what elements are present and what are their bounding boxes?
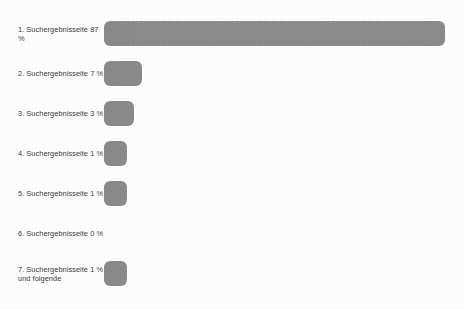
chart-row: 6. Suchergebnisseite 0 % <box>0 214 464 254</box>
row-label: 1. Suchergebnisseite 87 % <box>0 25 104 44</box>
row-bar <box>104 98 134 130</box>
row-bar <box>104 138 127 170</box>
row-label: 3. Suchergebnisseite 3 % <box>0 109 104 118</box>
row-label: 5. Suchergebnisseite 1 % <box>0 189 104 198</box>
bar-unit <box>422 21 445 46</box>
chart-row: 1. Suchergebnisseite 87 % <box>0 14 464 54</box>
pictogram-bar-chart: 1. Suchergebnisseite 87 %2. Suchergebnis… <box>0 0 464 309</box>
chart-row: 3. Suchergebnisseite 3 % <box>0 94 464 134</box>
bar-unit <box>104 181 127 206</box>
row-label: 7. Suchergebnisseite 1 % und folgende <box>0 265 104 284</box>
row-bar <box>104 178 127 210</box>
row-bar <box>104 18 445 50</box>
row-label: 4. Suchergebnisseite 1 % <box>0 149 104 158</box>
cut-off-caption <box>18 301 448 309</box>
bar-unit <box>111 101 134 126</box>
row-label: 2. Suchergebnisseite 7 % <box>0 69 104 78</box>
chart-row: 7. Suchergebnisseite 1 % und folgende <box>0 254 464 294</box>
bar-unit <box>104 141 127 166</box>
chart-row: 4. Suchergebnisseite 1 % <box>0 134 464 174</box>
row-bar <box>104 258 127 290</box>
bar-unit <box>119 61 142 86</box>
chart-row: 2. Suchergebnisseite 7 % <box>0 54 464 94</box>
row-label: 6. Suchergebnisseite 0 % <box>0 229 104 238</box>
row-bar <box>104 58 142 90</box>
chart-row: 5. Suchergebnisseite 1 % <box>0 174 464 214</box>
bar-unit <box>104 261 127 286</box>
